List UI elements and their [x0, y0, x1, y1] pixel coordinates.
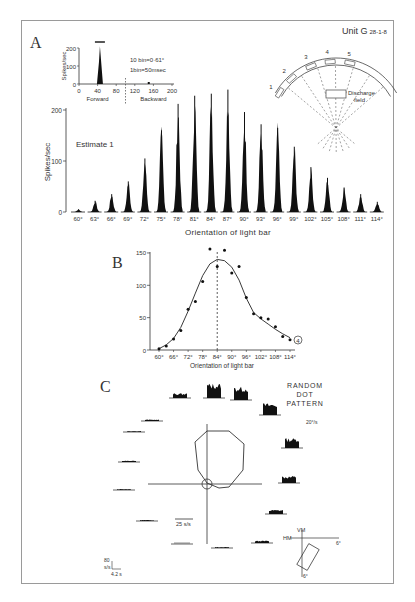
svg-text:1: 1 [269, 84, 273, 90]
svg-text:RANDOM: RANDOM [287, 382, 323, 389]
orientation-histograms: 0100200Spikes/secEstimate 160°63°66°69°7… [43, 90, 384, 237]
svg-text:72°: 72° [184, 354, 194, 360]
svg-text:PATTERN: PATTERN [286, 400, 323, 407]
svg-text:63°: 63° [90, 216, 100, 222]
svg-text:200: 200 [51, 107, 62, 114]
svg-text:50: 50 [139, 315, 146, 321]
svg-text:69°: 69° [123, 216, 133, 222]
svg-text:90°: 90° [239, 216, 249, 222]
svg-text:80: 80 [113, 88, 120, 94]
svg-text:96°: 96° [242, 354, 252, 360]
svg-text:2: 2 [282, 68, 286, 74]
inset-histogram: 010020004080120160200ForwardBackwardSpik… [61, 42, 178, 104]
svg-text:VM: VM [297, 527, 306, 533]
svg-text:99°: 99° [289, 216, 299, 222]
svg-text:102°: 102° [304, 216, 317, 222]
svg-text:3: 3 [304, 54, 308, 60]
svg-text:Discharge: Discharge [348, 90, 376, 96]
svg-text:1bin=50msec: 1bin=50msec [130, 67, 166, 73]
svg-text:5: 5 [347, 51, 351, 57]
svg-text:114°: 114° [284, 354, 297, 360]
svg-text:4: 4 [296, 338, 300, 344]
svg-text:0: 0 [143, 348, 147, 354]
svg-text:6°: 6° [336, 540, 341, 546]
tuning-curve-plot: 05010015060°66°72°78°84°90°96°102°108°11… [136, 248, 302, 370]
svg-text:0: 0 [77, 88, 81, 94]
svg-text:0: 0 [58, 209, 62, 216]
svg-text:150: 150 [136, 250, 147, 256]
svg-text:120: 120 [130, 88, 141, 94]
svg-text:60°: 60° [73, 216, 83, 222]
svg-text:6°: 6° [303, 573, 308, 579]
svg-text:102°: 102° [255, 354, 268, 360]
svg-text:Orientation of light bar: Orientation of light bar [190, 362, 255, 370]
svg-text:100: 100 [136, 283, 147, 289]
svg-text:Forward: Forward [87, 96, 109, 102]
svg-text:25 s/s: 25 s/s [176, 521, 191, 527]
svg-text:78°: 78° [173, 216, 183, 222]
svg-text:105°: 105° [321, 216, 334, 222]
svg-text:200: 200 [167, 88, 178, 94]
svg-text:66°: 66° [107, 216, 117, 222]
svg-text:100: 100 [51, 158, 62, 165]
svg-text:Backward: Backward [140, 96, 166, 102]
direction-polar-plot: 25 s/sRANDOMDOTPATTERN20°/s80s/s4.2 sVMH… [104, 382, 341, 579]
svg-text:72°: 72° [140, 216, 150, 222]
svg-text:160: 160 [148, 88, 159, 94]
svg-text:HM: HM [283, 535, 292, 541]
svg-text:4: 4 [326, 49, 330, 55]
svg-text:84°: 84° [206, 216, 216, 222]
svg-text:108°: 108° [269, 354, 282, 360]
svg-text:10 bin=0·61°: 10 bin=0·61° [130, 57, 165, 63]
svg-text:Orientation of light bar: Orientation of light bar [185, 228, 271, 237]
svg-text:40: 40 [94, 88, 101, 94]
svg-text:114°: 114° [371, 216, 384, 222]
svg-text:0: 0 [73, 82, 77, 88]
svg-text:81°: 81° [190, 216, 200, 222]
figure-canvas: A B C Unit G28-1-8 010020004080120160200… [0, 0, 415, 602]
svg-text:20°/s: 20°/s [306, 419, 318, 425]
svg-text:84°: 84° [213, 354, 223, 360]
panel-label-a: A [30, 34, 42, 51]
svg-text:60°: 60° [154, 354, 164, 360]
svg-text:100: 100 [66, 64, 77, 70]
svg-text:90°: 90° [227, 354, 237, 360]
svg-text:111°: 111° [354, 216, 366, 222]
svg-text:Estimate 1: Estimate 1 [76, 140, 114, 149]
svg-text:66°: 66° [169, 354, 179, 360]
svg-text:field: field [354, 97, 365, 103]
receptive-field-diagram: 12345Dischargefield [269, 49, 396, 152]
svg-text:DOT: DOT [296, 391, 313, 398]
svg-text:108°: 108° [337, 216, 350, 222]
caption-fragment [0, 590, 415, 602]
svg-text:75°: 75° [156, 216, 166, 222]
svg-text:Spikes/sec: Spikes/sec [61, 51, 67, 80]
panel-label-b: B [112, 254, 123, 271]
svg-text:87°: 87° [223, 216, 233, 222]
svg-text:96°: 96° [273, 216, 283, 222]
svg-text:4.2 s: 4.2 s [111, 571, 122, 577]
svg-text:s/s: s/s [104, 564, 111, 570]
svg-text:93°: 93° [256, 216, 266, 222]
svg-text:200: 200 [66, 46, 77, 52]
unit-label: Unit G28-1-8 [342, 26, 388, 36]
svg-text:78°: 78° [198, 354, 208, 360]
panel-label-c: C [100, 378, 111, 395]
svg-text:Spikes/sec: Spikes/sec [43, 143, 52, 182]
svg-text:80: 80 [104, 557, 110, 563]
